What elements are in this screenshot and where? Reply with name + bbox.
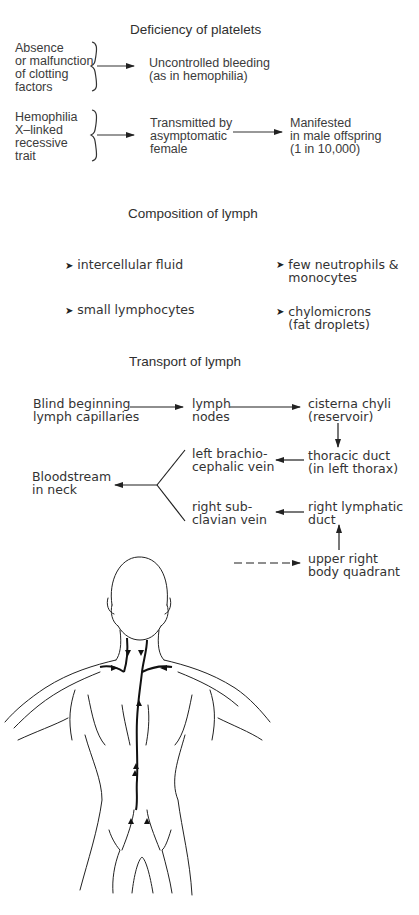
junction-line (157, 450, 185, 485)
diagram-graphics (0, 0, 419, 915)
flow-arrow-icons (111, 650, 167, 824)
brace-icon (91, 42, 97, 91)
junction-line (157, 485, 185, 521)
brace-icon (91, 110, 97, 161)
lymph-duct-lines (100, 638, 172, 810)
